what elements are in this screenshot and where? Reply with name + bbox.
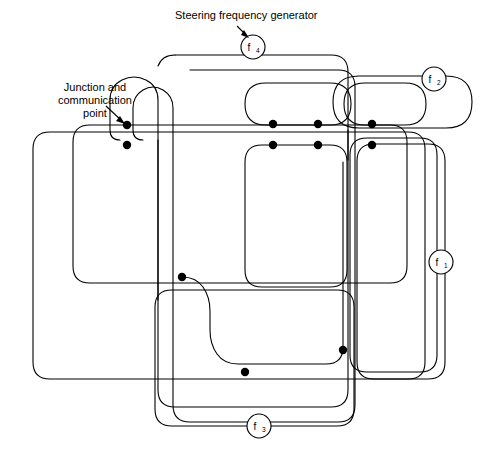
- loop-center-s-curve: [182, 162, 343, 364]
- junction-annotation-line1: Junction and: [64, 81, 126, 93]
- junction-dot: [339, 346, 347, 354]
- node-circle-f4[interactable]: [241, 35, 265, 59]
- loop-f3-outer: [155, 290, 354, 426]
- network-loop-diagram: f 4 f 2 f 1 f 3 Steering frequency gener…: [0, 0, 500, 461]
- loop-mid-lower: [245, 145, 347, 287]
- node-label-f3: f: [254, 421, 257, 432]
- node-label-f4: f: [248, 42, 251, 53]
- junction-dot: [368, 120, 376, 128]
- node-sublabel-f3: 3: [262, 426, 266, 433]
- loop-f4-outer: [110, 55, 348, 407]
- junction-dot: [269, 120, 277, 128]
- junction-dot: [123, 121, 131, 129]
- loop-f4-outer-top-left: [158, 55, 175, 66]
- loop-left-outer: [33, 132, 425, 379]
- junction-dot: [368, 141, 376, 149]
- loop-f1-inner: [350, 138, 437, 372]
- loop-f2-outer: [333, 76, 472, 128]
- node-circle-f1[interactable]: [429, 250, 453, 274]
- node-circle-f3[interactable]: [247, 414, 271, 438]
- junction-dot: [314, 120, 322, 128]
- junction-dot: [269, 141, 277, 149]
- node-sublabel-f4: 4: [256, 47, 260, 54]
- node-circle-f2[interactable]: [422, 67, 446, 91]
- steering-generator-annotation: Steering frequency generator: [175, 9, 318, 21]
- node-sublabel-f2: 2: [437, 79, 441, 86]
- junction-dot: [241, 368, 249, 376]
- loop-upper-capsule-right: [344, 83, 426, 125]
- junction-dot: [314, 141, 322, 149]
- node-label-f1: f: [436, 257, 439, 268]
- node-label-f2: f: [429, 74, 432, 85]
- junction-dot: [123, 141, 131, 149]
- junction-annotation-line2: communication: [58, 94, 132, 106]
- junction-dot: [178, 273, 186, 281]
- junction-annotation-line3: point: [83, 107, 107, 119]
- diagram-canvas: f 4 f 2 f 1 f 3 Steering frequency gener…: [0, 0, 500, 461]
- node-sublabel-f1: 1: [444, 262, 448, 269]
